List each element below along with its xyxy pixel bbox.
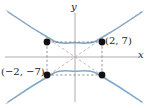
point-lower-right	[99, 72, 106, 79]
x-axis-label: x	[138, 50, 144, 60]
hyperbola-figure: y x (2, 7) (−2, −7)	[0, 0, 147, 108]
point-upper-left	[44, 39, 51, 46]
point-label-lower-left: (−2, −7)	[1, 67, 45, 77]
figure-canvas	[0, 0, 147, 108]
y-axis-label: y	[71, 2, 77, 12]
point-label-upper-right: (2, 7)	[105, 36, 132, 46]
